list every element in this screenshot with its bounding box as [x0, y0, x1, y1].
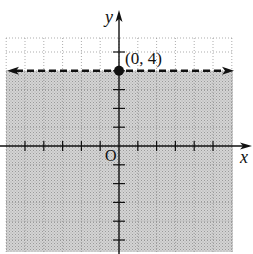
point-label: (0, 4): [125, 49, 162, 68]
y-axis-label: y: [103, 7, 113, 27]
x-axis-label: x: [239, 147, 248, 167]
origin-label: O: [105, 147, 117, 164]
coordinate-plane: (0, 4)yxO: [0, 0, 253, 254]
point-marker: [114, 66, 124, 76]
